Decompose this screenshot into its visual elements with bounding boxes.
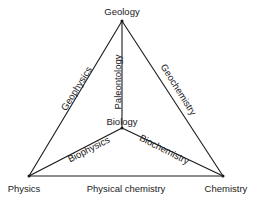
- sciences-diagram: GeophysicsPaleontologyGeochemistryBiophy…: [0, 0, 261, 200]
- vertex-chemistry: [222, 175, 225, 178]
- vertex-geology: [121, 20, 124, 23]
- vertex-physics: [28, 175, 31, 178]
- node-label-physics: Physics: [8, 183, 41, 194]
- edge-label-geophysics: Geophysics: [58, 64, 94, 112]
- vertices-group: [28, 20, 225, 178]
- edge-label-biophysics: Biophysics: [66, 134, 112, 165]
- edge-label-physical-chemistry: Physical chemistry: [87, 183, 166, 194]
- edge-label-paleontology: Paleontology: [112, 54, 123, 109]
- edges-group: [29, 21, 223, 176]
- node-labels-group: GeologyBiologyPhysicsChemistry: [8, 6, 248, 194]
- edge-label-biochemistry: Biochemistry: [138, 132, 192, 167]
- vertex-biology: [121, 127, 124, 130]
- node-label-geology: Geology: [104, 6, 140, 17]
- node-label-biology: Biology: [106, 116, 137, 127]
- node-label-chemistry: Chemistry: [205, 183, 248, 194]
